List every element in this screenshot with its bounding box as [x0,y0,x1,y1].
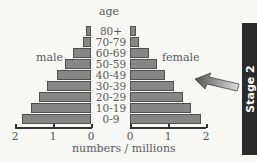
bar-female [130,37,139,47]
age-group-label: 0-9 [92,114,130,125]
bar-male [39,92,91,102]
stage-label-box: Stage 2 [242,23,257,155]
bar-female [130,48,149,58]
axis-tick [206,124,208,128]
bar-male [86,26,91,36]
tick-label: 1 [46,130,60,142]
female-label: female [162,52,200,63]
tick-label: 2 [199,130,213,142]
axis-tick [15,124,17,128]
bar-female [130,81,174,91]
x-axis-label: numbers / millions [72,143,176,154]
bar-male [57,70,91,80]
age-axis-label: age [99,6,119,17]
male-label: male [36,52,63,63]
bar-female [130,114,201,124]
bar-female [130,70,165,80]
tick-label: 0 [123,130,137,142]
bar-female [130,92,183,102]
bar-female [130,59,157,69]
axis-tick [53,124,55,128]
bar-male [65,59,91,69]
bar-male [31,103,91,113]
population-pyramid-chart: age male female 80+70-7960-6950-5940-493… [0,0,257,162]
tick-label: 2 [8,130,22,142]
bar-male [22,114,91,124]
bar-female [130,103,191,113]
arrow-icon [193,72,241,94]
axis-tick [130,124,132,128]
axis-tick [91,124,93,128]
stage-label: Stage 2 [243,65,256,112]
tick-label: 0 [84,130,98,142]
tick-label: 1 [161,130,175,142]
bar-female [130,26,136,36]
bar-male [73,48,91,58]
bar-male [83,37,91,47]
axis-tick [168,124,170,128]
bar-male [47,81,91,91]
